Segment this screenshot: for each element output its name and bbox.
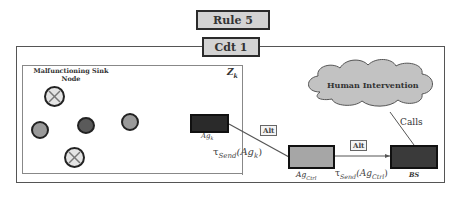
tau-send-ctrl: τSend(AgCtrl) <box>335 168 388 180</box>
base-station <box>390 145 438 169</box>
calls-label: Calls <box>400 117 423 127</box>
agent-agctrl <box>288 145 335 169</box>
base-station-label: BS <box>409 171 419 179</box>
connections <box>0 0 463 206</box>
alt-label-ctrl: Alt <box>350 140 367 151</box>
cloud-label: Human Intervention <box>327 80 419 90</box>
agent-agctrl-label: AgCtrl <box>296 170 317 181</box>
tau-send-agk: τSend(Agk) <box>213 146 262 160</box>
agent-agk-label: Agk <box>201 132 214 141</box>
alt-label-agk: Alt <box>260 125 277 136</box>
agent-agk <box>190 114 229 133</box>
